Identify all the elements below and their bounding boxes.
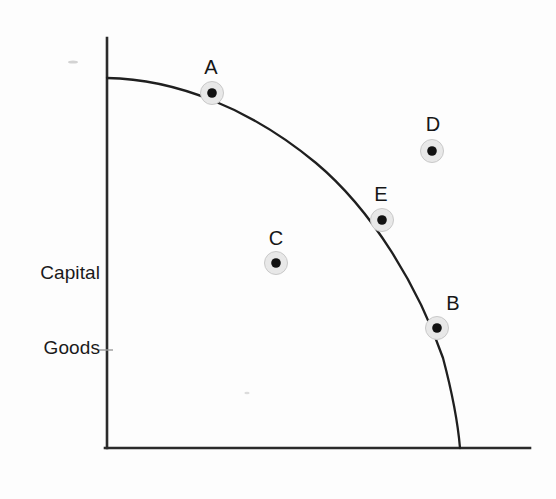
- point-marker-d[interactable]: [421, 140, 444, 163]
- point-marker-a-core: [207, 88, 217, 98]
- point-marker-a[interactable]: [201, 82, 224, 105]
- point-marker-c[interactable]: [265, 252, 288, 275]
- scan-artifact-speck: [68, 60, 78, 63]
- point-label-a: A: [204, 57, 217, 77]
- point-marker-c-core: [271, 258, 281, 268]
- point-marker-d-core: [427, 146, 437, 156]
- point-marker-b-core: [432, 323, 442, 333]
- point-marker-e-core: [377, 215, 387, 225]
- point-label-d: D: [426, 114, 440, 134]
- y-axis-label-line-2: Goods: [40, 335, 100, 360]
- point-label-c: C: [269, 228, 283, 248]
- y-axis-label: Capital Goods: [40, 210, 100, 410]
- x-axis-label: Consumer Goods: [0, 452, 556, 499]
- point-label-e: E: [374, 184, 387, 204]
- point-marker-e[interactable]: [371, 209, 394, 232]
- point-marker-b[interactable]: [426, 317, 449, 340]
- scan-artifact-speck-lower: [244, 392, 249, 395]
- y-axis-label-line-1: Capital: [40, 260, 100, 285]
- ppf-chart-figure: A B C D E Capital Goods Consumer Goods: [0, 0, 556, 499]
- point-label-b: B: [446, 293, 459, 313]
